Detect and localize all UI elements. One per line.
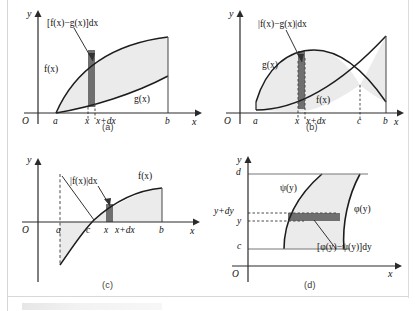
tick-b: b [159, 225, 164, 235]
origin-label: O [232, 269, 239, 279]
panel-d-caption: (d) [304, 280, 316, 290]
tick-c: c [237, 241, 241, 251]
origin-label: O [22, 225, 29, 235]
panel-d-plot [218, 152, 410, 294]
figure-root: y x O a x x+dx b [f(x)−g(x)]dx f(x) g(x)… [0, 0, 415, 311]
strip-label: [φ(y)−ψ(y)]dy [317, 242, 372, 252]
y-axis-label: y [237, 154, 241, 165]
tick-y: y [237, 216, 241, 226]
left-margin-rule [7, 0, 8, 311]
curve-g-label: g(x) [134, 94, 150, 104]
tick-y-plus-dy: y+dy [214, 206, 234, 216]
x-axis-label: x [192, 116, 196, 127]
y-axis-label: y [27, 8, 31, 19]
panel-c-plot [14, 152, 210, 294]
curve-g-label: g(x) [262, 60, 278, 70]
tick-d: d [236, 167, 241, 177]
strip-label: [f(x)−g(x)]dx [47, 18, 98, 28]
curve-psi-label: ψ(y) [280, 183, 297, 193]
tick-b: b [165, 116, 170, 126]
panel-b-caption: (b) [306, 122, 318, 132]
x-axis-label: x [394, 116, 398, 127]
tick-a: a [56, 225, 61, 235]
tick-x-plus-dx: x+dx [115, 225, 135, 235]
region-positive [90, 188, 162, 222]
tick-x: x [104, 225, 108, 235]
tick-c: c [86, 225, 90, 235]
origin-label: O [224, 116, 231, 126]
curve-f-label: f(x) [44, 64, 58, 74]
bottom-cropped-text [22, 303, 162, 310]
y-axis-label: y [27, 154, 31, 165]
panel-a-caption: (a) [102, 122, 114, 132]
differential-strip [288, 213, 340, 221]
tick-x: x [85, 116, 89, 126]
tick-x: x [295, 116, 299, 126]
panel-a: y x O a x x+dx b [f(x)−g(x)]dx f(x) g(x)… [14, 6, 210, 134]
panel-c: y x O a c x x+dx b |f(x)|dx f(x) (c) [14, 152, 210, 294]
curve-phi-label: φ(y) [354, 204, 371, 214]
tick-a: a [53, 116, 58, 126]
tick-a: a [253, 116, 258, 126]
curve-f-label: f(x) [138, 171, 152, 181]
tick-b: b [383, 116, 388, 126]
region-right-lobe [360, 36, 386, 102]
x-axis-label: x [190, 225, 194, 236]
tick-c: c [357, 116, 361, 126]
bottom-rule [7, 296, 408, 297]
strip-label: |f(x)−g(x)|dx [258, 19, 307, 29]
x-axis-label: x [388, 268, 392, 279]
strip-label: |f(x)|dx [70, 176, 98, 186]
panel-b: y x O a x x+dx c b |f(x)−g(x)|dx g(x) f(… [218, 6, 410, 134]
y-axis-label: y [229, 8, 233, 19]
panel-d: y x O d y+dy y c ψ(y) φ(y) [φ(y)−ψ(y)]dy… [218, 152, 410, 294]
origin-label: O [22, 116, 29, 126]
panel-c-caption: (c) [102, 280, 113, 290]
panel-b-plot [218, 6, 410, 134]
curve-f-label: f(x) [316, 95, 330, 105]
